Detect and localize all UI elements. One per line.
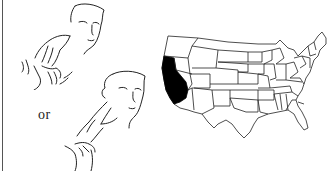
or-connector-text: or — [38, 107, 51, 123]
us-map — [158, 28, 330, 146]
left-border-line — [2, 0, 3, 171]
signer-figure-2 — [55, 68, 160, 171]
